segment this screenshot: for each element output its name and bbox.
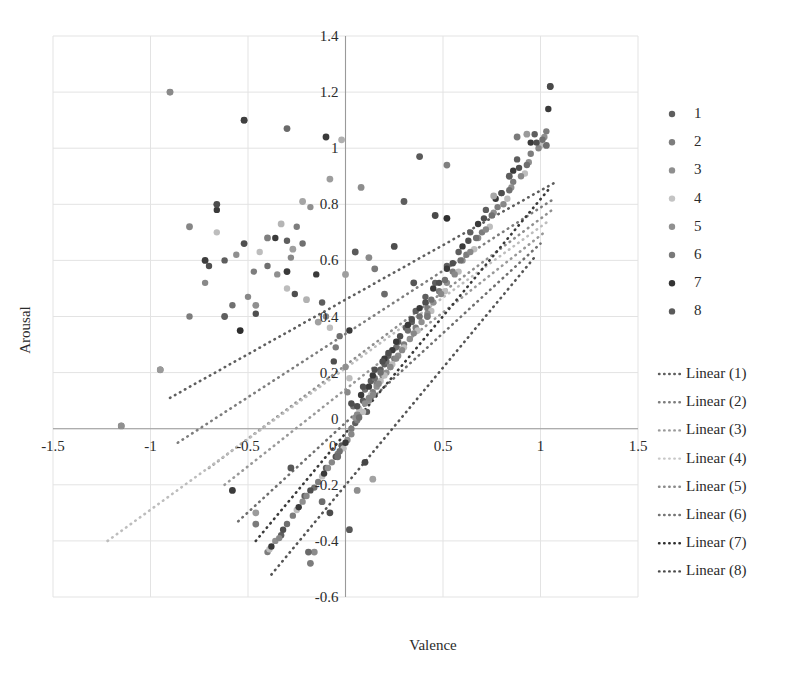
scatter-point xyxy=(307,204,313,210)
scatter-point xyxy=(405,322,411,328)
scatter-point xyxy=(432,212,439,219)
scatter-point xyxy=(245,294,251,300)
scatter-point xyxy=(528,151,534,157)
scatter-point xyxy=(424,313,431,320)
scatter-point xyxy=(366,383,372,389)
scatter-point xyxy=(370,392,376,398)
scatter-point xyxy=(313,271,319,277)
scatter-point xyxy=(465,238,471,244)
scatter-point xyxy=(455,249,461,255)
scatter-point xyxy=(356,414,362,420)
scatter-point xyxy=(372,367,378,373)
scatter-point xyxy=(444,215,451,222)
scatter-point xyxy=(213,201,220,208)
y-tick-label: 0.6 xyxy=(320,252,339,268)
scatter-point xyxy=(358,184,365,191)
scatter-point xyxy=(481,215,487,221)
scatter-point xyxy=(348,431,354,437)
legend-marker-label[interactable]: 2 xyxy=(694,133,702,149)
scatter-point xyxy=(214,229,220,235)
scatter-point xyxy=(325,465,331,471)
scatter-point xyxy=(545,106,551,112)
legend-line-label[interactable]: Linear (7) xyxy=(686,534,746,551)
legend-line-label[interactable]: Linear (5) xyxy=(686,478,746,495)
scatter-point xyxy=(336,333,342,339)
legend-marker-icon xyxy=(669,308,675,314)
scatter-point xyxy=(438,291,444,297)
scatter-point xyxy=(475,221,481,227)
scatter-point xyxy=(483,207,489,213)
legend-marker-label[interactable]: 3 xyxy=(694,161,702,177)
legend-line-label[interactable]: Linear (2) xyxy=(686,393,746,410)
scatter-point xyxy=(206,263,212,269)
scatter-point xyxy=(391,243,398,250)
scatter-point xyxy=(303,493,309,499)
scatter-point xyxy=(442,277,448,283)
legend-line-label[interactable]: Linear (1) xyxy=(686,365,746,382)
legend-marker-label[interactable]: 5 xyxy=(694,218,702,234)
scatter-point xyxy=(284,238,290,244)
scatter-point xyxy=(422,299,428,305)
trendline xyxy=(170,182,556,398)
legend-marker-icon xyxy=(669,252,675,258)
scatter-point xyxy=(252,302,259,309)
legend-line-label[interactable]: Linear (6) xyxy=(686,506,746,523)
y-axis-title: Arousal xyxy=(17,306,33,354)
scatter-point xyxy=(452,271,458,277)
scatter-point xyxy=(366,254,373,261)
scatter-point xyxy=(405,327,411,333)
legend-marker-label[interactable]: 6 xyxy=(694,246,702,262)
legend-marker-label[interactable]: 1 xyxy=(694,105,702,121)
scatter-point xyxy=(531,131,537,137)
scatter-point xyxy=(543,142,550,149)
scatter-point xyxy=(157,366,164,373)
y-tick-label: 1 xyxy=(331,140,339,156)
scatter-point xyxy=(393,355,399,361)
scatter-point xyxy=(430,285,436,291)
x-tick-label: 0 xyxy=(329,438,337,454)
scatter-point xyxy=(278,221,285,228)
scatter-point xyxy=(352,249,359,256)
scatter-point xyxy=(416,313,422,319)
scatter-point xyxy=(371,265,378,272)
x-axis-title: Valence xyxy=(409,637,457,653)
scatter-point xyxy=(272,235,278,241)
scatter-point xyxy=(307,487,313,493)
legend-marker-label[interactable]: 8 xyxy=(694,302,702,318)
scatter-point xyxy=(473,235,479,241)
scatter-point xyxy=(504,195,510,201)
scatter-point xyxy=(457,257,463,263)
scatter-point xyxy=(360,383,366,389)
legend-line-label[interactable]: Linear (8) xyxy=(686,562,746,579)
scatter-point xyxy=(397,333,403,339)
scatter-point xyxy=(518,173,524,179)
x-tick-label: -0.5 xyxy=(236,438,260,454)
scatter-point xyxy=(516,165,522,171)
scatter-point xyxy=(338,136,345,143)
legend-line-label[interactable]: Linear (4) xyxy=(686,450,746,467)
legend-marker-label[interactable]: 4 xyxy=(694,190,702,206)
scatter-point xyxy=(547,83,554,90)
scatter-point xyxy=(333,344,339,350)
legend-marker-label[interactable]: 7 xyxy=(694,274,702,290)
scatter-point xyxy=(407,336,413,342)
scatter-point xyxy=(375,381,381,387)
scatter-point xyxy=(354,487,361,494)
scatter-point xyxy=(252,521,259,528)
legend-marker-icon xyxy=(669,195,675,201)
scatter-point xyxy=(229,302,235,308)
legend[interactable]: 12345678Linear (1)Linear (2)Linear (3)Li… xyxy=(659,105,746,579)
scatter-point xyxy=(186,223,193,230)
scatter-point xyxy=(342,364,348,370)
scatter-point xyxy=(514,156,520,162)
scatter-point xyxy=(524,162,530,168)
scatter-point xyxy=(284,268,291,275)
scatter-point xyxy=(311,549,318,556)
scatter-point xyxy=(489,212,495,218)
legend-line-label[interactable]: Linear (3) xyxy=(686,421,746,438)
scatter-point xyxy=(444,162,451,169)
scatter-point xyxy=(299,498,305,504)
scatter-point xyxy=(510,179,516,185)
scatter-point xyxy=(377,369,383,375)
scatter-point xyxy=(411,330,417,336)
